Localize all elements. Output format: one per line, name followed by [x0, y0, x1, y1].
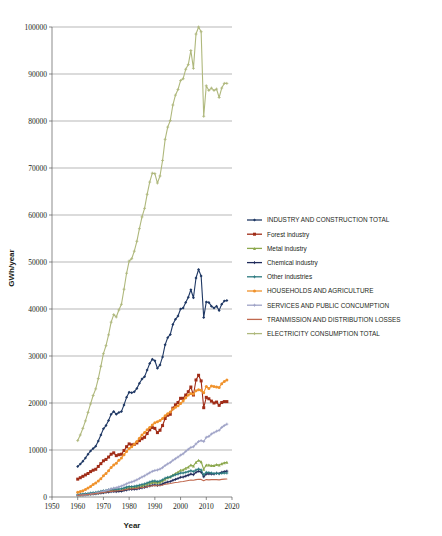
- data-point-marker: [94, 468, 97, 471]
- legend-marker: [253, 290, 256, 293]
- legend-label: Other industries: [267, 273, 312, 280]
- data-point-marker: [159, 419, 162, 422]
- y-tick-label: 10000: [28, 446, 47, 455]
- data-point-marker: [130, 445, 133, 448]
- data-point-marker: [189, 392, 192, 395]
- y-tick-label: 70000: [28, 164, 47, 173]
- data-point-marker: [81, 475, 84, 478]
- data-point-marker: [107, 456, 110, 459]
- data-point-marker: [87, 487, 90, 490]
- data-point-marker: [218, 404, 221, 407]
- data-point-marker: [125, 445, 128, 448]
- data-point-marker: [123, 449, 126, 452]
- data-point-marker: [84, 473, 87, 476]
- legend-label: SERVICES AND PUBLIC CONCUMPTION: [267, 302, 389, 309]
- data-point-marker: [156, 431, 159, 434]
- data-point-marker: [187, 394, 190, 397]
- data-point-marker: [177, 404, 180, 407]
- data-point-marker: [117, 453, 120, 456]
- data-point-marker: [146, 428, 149, 431]
- data-point-marker: [169, 410, 172, 413]
- legend-label: INDUSTRY AND CONSTRUCTION TOTAL: [267, 216, 390, 223]
- legend-label: Forest industry: [267, 231, 310, 239]
- y-tick-label: 50000: [28, 258, 47, 267]
- data-point-marker: [92, 483, 95, 486]
- data-point-marker: [159, 429, 162, 432]
- data-point-marker: [76, 491, 79, 494]
- data-point-marker: [153, 421, 156, 424]
- legend-label: TRANMISSION AND DISTRIBUTION LOSSES: [267, 316, 401, 323]
- data-point-marker: [97, 465, 100, 468]
- data-point-marker: [220, 382, 223, 385]
- data-point-marker: [179, 402, 182, 405]
- x-tick-label: 2020: [225, 502, 240, 511]
- data-point-marker: [182, 400, 185, 403]
- data-point-marker: [192, 393, 195, 396]
- data-point-marker: [112, 451, 115, 454]
- data-point-marker: [120, 456, 123, 459]
- data-point-marker: [202, 391, 205, 394]
- data-point-marker: [151, 424, 154, 427]
- legend-label: HOUSEHOLDS AND AGRICULTURE: [267, 287, 373, 294]
- x-tick-label: 1950: [45, 502, 60, 511]
- data-point-marker: [79, 490, 82, 493]
- data-point-marker: [189, 386, 192, 389]
- data-point-marker: [213, 402, 216, 405]
- data-point-marker: [102, 474, 105, 477]
- data-point-marker: [92, 469, 95, 472]
- data-point-marker: [87, 472, 90, 475]
- data-point-marker: [207, 397, 210, 400]
- data-point-marker: [115, 454, 118, 457]
- data-point-marker: [195, 378, 198, 381]
- data-point-marker: [223, 380, 226, 383]
- data-point-marker: [197, 374, 200, 377]
- data-point-marker: [215, 386, 218, 389]
- data-point-marker: [220, 401, 223, 404]
- data-point-marker: [141, 437, 144, 440]
- y-axis-title: GWh/year: [7, 249, 16, 286]
- data-point-marker: [210, 400, 213, 403]
- data-point-marker: [202, 406, 205, 409]
- data-point-marker: [99, 477, 102, 480]
- data-point-marker: [197, 388, 200, 391]
- data-point-marker: [164, 414, 167, 417]
- data-point-marker: [205, 396, 208, 399]
- data-point-marker: [218, 386, 221, 389]
- y-tick-label: 60000: [28, 211, 47, 220]
- data-point-marker: [223, 400, 226, 403]
- data-point-marker: [76, 478, 79, 481]
- data-point-marker: [215, 401, 218, 404]
- data-point-marker: [161, 424, 164, 427]
- data-point-marker: [225, 400, 228, 403]
- data-point-marker: [143, 431, 146, 434]
- data-point-marker: [200, 389, 203, 392]
- y-tick-label: 20000: [28, 399, 47, 408]
- y-tick-label: 40000: [28, 305, 47, 314]
- data-point-marker: [84, 488, 87, 491]
- data-point-marker: [179, 397, 182, 400]
- legend-label: Chemical industry: [267, 259, 319, 267]
- data-point-marker: [120, 453, 123, 456]
- data-point-marker: [117, 459, 120, 462]
- x-tick-label: 2010: [199, 502, 214, 511]
- data-point-marker: [153, 427, 156, 430]
- data-point-marker: [161, 417, 164, 420]
- chart-background: [0, 0, 442, 536]
- data-point-marker: [210, 385, 213, 388]
- legend-marker: [253, 233, 256, 236]
- data-point-marker: [123, 453, 126, 456]
- data-point-marker: [146, 432, 149, 435]
- legend-label: ELECTRICITY CONSUMPTION TOTAL: [267, 330, 380, 337]
- data-point-marker: [207, 387, 210, 390]
- data-point-marker: [200, 379, 203, 382]
- data-point-marker: [171, 408, 174, 411]
- data-point-marker: [195, 389, 198, 392]
- data-point-marker: [107, 469, 110, 472]
- data-point-marker: [110, 466, 113, 469]
- data-point-marker: [177, 401, 180, 404]
- y-tick-label: 90000: [28, 70, 47, 79]
- data-point-marker: [89, 470, 92, 473]
- electricity-consumption-chart: 0100002000030000400005000060000700008000…: [0, 0, 442, 536]
- x-tick-label: 2000: [173, 502, 188, 511]
- data-point-marker: [102, 459, 105, 462]
